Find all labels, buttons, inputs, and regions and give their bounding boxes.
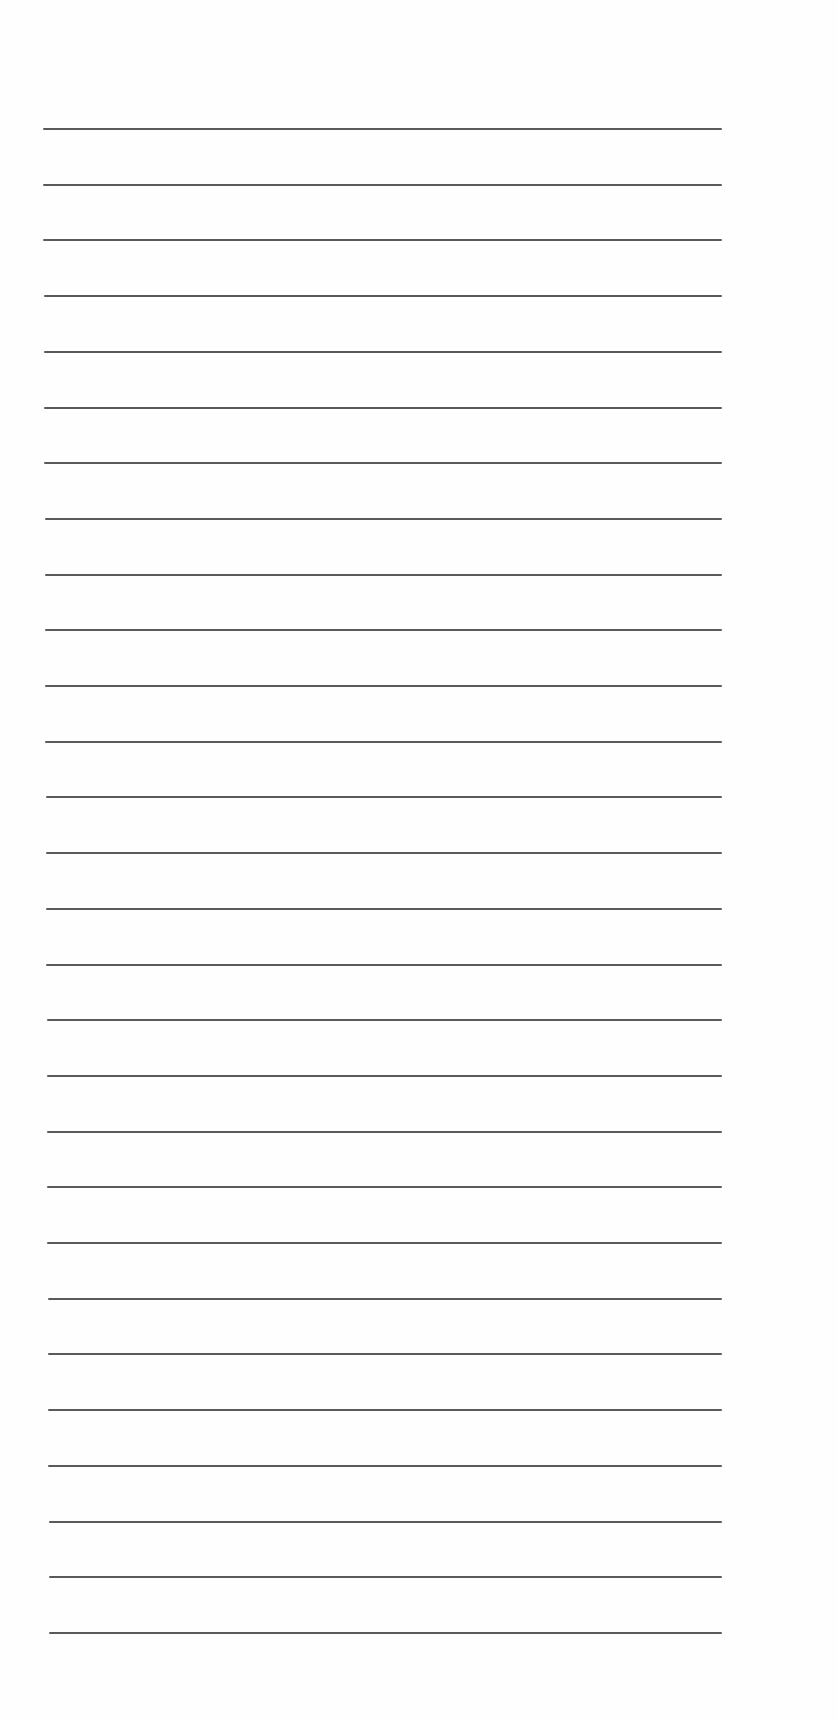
lined-paper-page [0,0,838,1722]
ruled-line [46,796,722,798]
ruled-line [47,1242,722,1244]
ruled-line [43,184,722,186]
ruled-line [45,685,722,687]
ruled-line [47,1075,722,1077]
ruled-line [47,1019,722,1021]
ruled-line [43,239,722,241]
ruled-line [46,852,722,854]
ruled-line [48,1298,722,1300]
ruled-line [49,1576,722,1578]
ruled-line [44,295,722,297]
ruled-line [44,462,722,464]
ruled-line [48,1409,722,1411]
ruled-line [44,407,722,409]
ruled-line [46,908,722,910]
ruled-line [49,1521,722,1523]
ruled-line [48,1353,722,1355]
ruled-line [47,1186,722,1188]
ruled-line [48,1465,722,1467]
ruled-line [47,1131,722,1133]
ruled-line [49,1632,722,1634]
ruled-line [45,518,722,520]
ruled-line [45,629,722,631]
ruled-line [44,351,722,353]
ruled-line [43,128,722,130]
ruled-line [45,741,722,743]
ruled-line [46,964,722,966]
ruled-line [45,574,722,576]
